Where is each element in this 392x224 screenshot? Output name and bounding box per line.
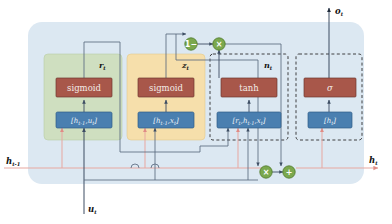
multiply-operator-top[interactable]: × xyxy=(213,38,225,50)
output-concat-label: [ht] xyxy=(324,117,336,126)
u-input-label: ut xyxy=(88,204,97,215)
one-minus-operator-label: 1− xyxy=(185,40,197,49)
o-output-label: ot xyxy=(335,6,344,17)
output-activation-label: σ xyxy=(327,83,333,93)
h-prev-input-label: ht-1 xyxy=(6,156,20,167)
one-minus-operator[interactable]: 1− xyxy=(185,38,197,50)
multiply-operator-bottom[interactable]: × xyxy=(260,166,272,178)
add-operator-label: + xyxy=(286,168,293,177)
multiply-operator-bottom-label: × xyxy=(263,168,270,177)
gru-cell-diagram: sigmoid sigmoid tanh σ [ht-1,ut] [ht-1,x… xyxy=(0,0,392,224)
reset-activation-label: sigmoid xyxy=(67,83,101,93)
multiply-operator-top-label: × xyxy=(216,40,223,49)
add-operator[interactable]: + xyxy=(283,166,295,178)
h-output-label: ht xyxy=(369,155,378,166)
update-activation-label: sigmoid xyxy=(149,83,183,93)
diagram-canvas: sigmoid sigmoid tanh σ [ht-1,ut] [ht-1,x… xyxy=(0,0,392,224)
candidate-activation-label: tanh xyxy=(239,83,259,93)
